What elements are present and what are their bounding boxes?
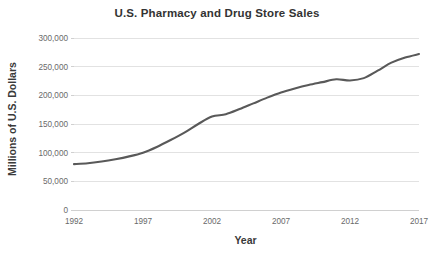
x-axis-tick-label: 1992 xyxy=(65,217,84,226)
chart-container: U.S. Pharmacy and Drug Store Sales Milli… xyxy=(0,0,434,256)
series-line xyxy=(74,54,419,164)
y-axis-tick-label: 250,000 xyxy=(38,63,68,72)
y-axis-tick-label: 300,000 xyxy=(38,34,68,43)
chart-plot-area: 050,000100,000150,000200,000250,000300,0… xyxy=(0,0,434,256)
y-axis-tick-label: 50,000 xyxy=(43,177,68,186)
x-axis-tick-label: 2017 xyxy=(410,217,429,226)
x-axis-tick-label: 2002 xyxy=(203,217,222,226)
x-axis-tick-label: 2007 xyxy=(272,217,291,226)
y-axis-tick-label: 150,000 xyxy=(38,120,68,129)
y-axis-tick-label: 100,000 xyxy=(38,149,68,158)
y-axis-tick-labels: 050,000100,000150,000200,000250,000300,0… xyxy=(38,34,68,215)
data-series xyxy=(74,54,419,164)
x-axis-tick-labels: 199219972002200720122017 xyxy=(65,217,429,226)
gridlines xyxy=(71,38,419,210)
y-axis-tick-label: 200,000 xyxy=(38,91,68,100)
x-axis-tick-label: 2012 xyxy=(341,217,360,226)
y-axis-tick-label: 0 xyxy=(63,206,68,215)
x-axis-tick-label: 1997 xyxy=(134,217,153,226)
